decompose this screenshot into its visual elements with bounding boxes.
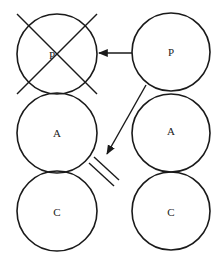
right-p-label: P bbox=[168, 46, 174, 58]
blocked-double-line-icon bbox=[89, 157, 119, 186]
diagram-canvas: P A C P A C bbox=[0, 0, 222, 266]
arrow-diagonal-icon bbox=[107, 85, 146, 154]
node-left-c: C bbox=[17, 171, 97, 251]
right-c-label: C bbox=[167, 206, 174, 218]
node-left-a: A bbox=[17, 93, 97, 173]
left-column: P A C bbox=[17, 14, 97, 251]
right-column: P A C bbox=[132, 13, 210, 250]
cross-out-icon bbox=[17, 14, 97, 94]
left-a-label: A bbox=[53, 127, 61, 139]
node-left-p: P bbox=[17, 14, 97, 94]
node-right-a: A bbox=[132, 94, 210, 172]
right-a-label: A bbox=[167, 125, 175, 137]
node-right-c: C bbox=[132, 172, 210, 250]
node-right-p: P bbox=[132, 13, 210, 91]
left-c-label: C bbox=[53, 206, 60, 218]
